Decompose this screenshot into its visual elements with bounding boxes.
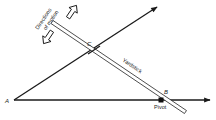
yardstick-angle-diagram: A C B Pivot Yardstick Directions of moti…: [0, 0, 216, 120]
motion-arrow-down-icon: [39, 28, 56, 46]
upper-ray: [14, 7, 157, 100]
label-point-b: B: [164, 89, 168, 95]
motion-arrow-up-icon: [64, 3, 81, 21]
pivot-dot: [159, 98, 164, 103]
directions-of-motion-label: Directions of motion: [34, 5, 60, 34]
label-pivot: Pivot: [154, 104, 167, 110]
label-point-c: C: [87, 41, 92, 47]
label-point-a: A: [4, 98, 9, 104]
